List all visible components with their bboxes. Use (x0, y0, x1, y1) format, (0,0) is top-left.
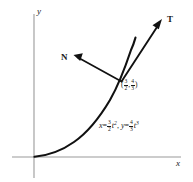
y-coordinate-fraction: 43 (131, 79, 135, 92)
x-coordinate-fraction: 32 (124, 79, 128, 92)
x-coordinate-denominator: 2 (124, 85, 128, 92)
figure-canvas (0, 0, 193, 182)
equation-x-coef-numerator: 3 (107, 120, 111, 126)
parametric-equation-label: x=32t2, y=43t3 (99, 120, 139, 133)
tangent-vector-shaft (122, 24, 160, 82)
paren-close: ) (135, 80, 138, 89)
equation-x-coefficient: 32 (107, 120, 111, 133)
equation-x-equals: = (103, 121, 108, 130)
y-coordinate-numerator: 4 (131, 79, 135, 85)
tangent-vector-arrowhead (153, 19, 163, 29)
equation-y-exponent: 3 (136, 120, 139, 126)
point-coordinate-label: (32,43) (121, 79, 137, 92)
tangent-vector-label: T (167, 15, 173, 24)
x-coordinate-numerator: 3 (124, 79, 128, 85)
equation-y-coefficient: 43 (129, 120, 133, 133)
parametric-curve (35, 38, 136, 157)
equation-y-coef-numerator: 4 (129, 120, 133, 126)
equation-y-coef-denominator: 3 (129, 126, 133, 133)
parametric-curve-figure: y x T N (32,43) x=32t2, y=43t3 (0, 0, 193, 182)
normal-vector-shaft (78, 58, 122, 82)
y-coordinate-denominator: 3 (131, 85, 135, 92)
x-axis-label: x (176, 159, 180, 168)
normal-vector-label: N (61, 53, 68, 62)
equation-comma: , (117, 121, 119, 130)
equation-y-equals: = (124, 121, 129, 130)
equation-x-coef-denominator: 2 (107, 126, 111, 133)
y-axis-label: y (37, 7, 41, 16)
